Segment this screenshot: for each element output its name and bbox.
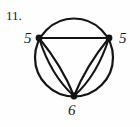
vertex-label-right: 5	[119, 31, 127, 46]
vertex-dot-bottom	[71, 93, 78, 100]
vertex-label-left: 5	[24, 31, 32, 46]
edge-left-bottom-curve-1	[39, 38, 74, 96]
edge-right-bottom-curve-1	[74, 38, 109, 96]
graph-figure: 11. 5 5 6	[0, 0, 140, 127]
vertex-label-bottom: 6	[68, 103, 76, 118]
edge-left-bottom-curve-2	[39, 38, 74, 96]
vertex-dot-left	[36, 35, 43, 42]
vertex-dot-right	[106, 35, 113, 42]
edge-right-bottom-curve-2	[74, 38, 109, 96]
